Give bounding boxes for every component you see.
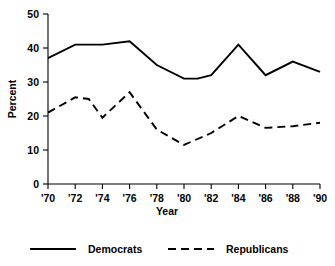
x-tick-label: '78 [150,192,164,204]
x-tick-label: '76 [123,192,137,204]
x-tick-label: '88 [286,192,300,204]
y-tick-label: 40 [27,42,39,54]
x-axis-tick-labels: '70'72'74'76'78'80'82'84'86'88'90 [41,192,327,204]
y-axis-title: Percent [6,79,18,118]
x-tick-label: '80 [177,192,191,204]
percent-by-year-line-chart: 01020304050 '70'72'74'76'78'80'82'84'86'… [0,0,335,266]
x-tick-label: '70 [41,192,55,204]
series-line-democrats [48,41,320,78]
y-tick-label: 0 [33,178,39,190]
series-layer [48,41,320,145]
legend-label-democrats: Democrats [88,243,142,255]
x-axis-ticks [48,184,320,189]
x-axis-title: Year [156,205,178,217]
y-tick-label: 10 [27,144,39,156]
series-line-republicans [48,92,320,145]
legend-label-republicans: Republicans [226,243,289,255]
x-tick-label: '84 [231,192,245,204]
y-tick-label: 20 [27,110,39,122]
x-tick-label: '82 [204,192,218,204]
y-axis-tick-labels: 01020304050 [27,8,39,190]
y-axis-ticks [43,14,48,184]
y-tick-label: 30 [27,76,39,88]
chart-container: 01020304050 '70'72'74'76'78'80'82'84'86'… [0,0,335,266]
x-tick-label: '90 [313,192,327,204]
x-tick-label: '74 [95,192,109,204]
x-tick-label: '72 [68,192,82,204]
y-tick-label: 50 [27,8,39,20]
x-tick-label: '86 [259,192,273,204]
chart-legend: Democrats Republicans [30,243,289,255]
